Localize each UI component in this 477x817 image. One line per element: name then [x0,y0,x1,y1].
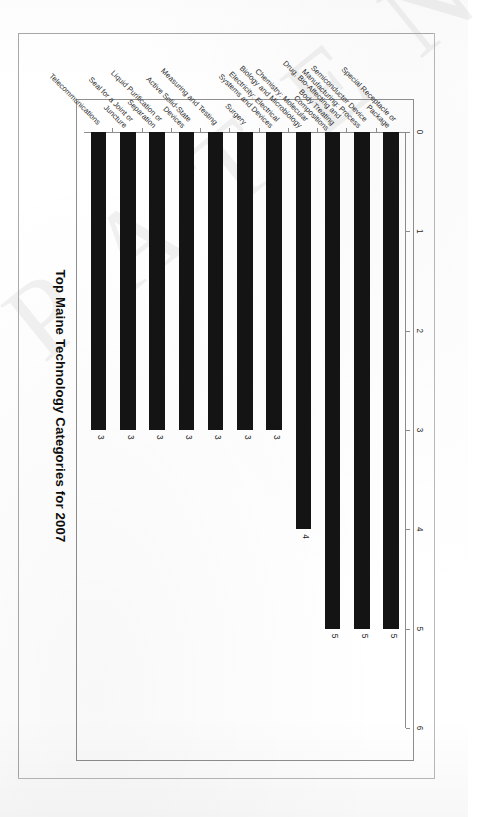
bar-row: 3 [260,132,289,728]
bar-row: 3 [201,132,230,728]
bar-value-label: 3 [96,435,105,440]
bar-value-label: 5 [360,634,369,639]
category-tick [346,128,347,132]
bar [179,132,195,430]
bar [354,132,370,629]
bar-row: 3 [143,132,172,728]
category-tick [376,128,377,132]
category-tick [112,128,113,132]
tick-mark [406,430,410,431]
bar-row: 3 [230,132,259,728]
category-tick [317,128,318,132]
tick-mark [406,529,410,530]
bar-value-label: 3 [155,435,164,440]
tick-label: 6 [415,726,424,731]
bar-value-label: 3 [126,435,135,440]
plot-area: 0123456 55543333333 Special Receptacle o… [84,132,406,728]
bar [266,132,282,430]
tick-mark [406,331,410,332]
bar-value-label: 3 [184,435,193,440]
rotated-chart-container: Top Maine Technology Categories for 2007… [20,36,432,776]
category-tick [288,128,289,132]
bar-value-label: 5 [330,634,339,639]
bar-row: 3 [172,132,201,728]
tick-label: 0 [415,130,424,135]
bar-chart: Top Maine Technology Categories for 2007… [20,36,432,776]
tick-label: 3 [415,428,424,433]
category-tick [142,128,143,132]
bar-value-label: 3 [272,435,281,440]
bar-value-label: 3 [243,435,252,440]
bar [237,132,253,430]
tick-mark [406,132,410,133]
tick-label: 4 [415,527,424,532]
chart-title: Top Maine Technology Categories for 2007 [53,36,68,776]
bar-row: 3 [113,132,142,728]
bar-value-label: 5 [389,634,398,639]
tick-mark [406,231,410,232]
bar [120,132,136,430]
bar [325,132,341,629]
category-tick [259,128,260,132]
tick-label: 2 [415,328,424,333]
tick-mark [406,629,410,630]
bar-value-label: 3 [213,435,222,440]
category-tick [200,128,201,132]
category-tick [229,128,230,132]
bar [149,132,165,430]
tick-mark [406,728,410,729]
bar-row: 5 [377,132,406,728]
category-tick [171,128,172,132]
bar [208,132,224,430]
tick-label: 5 [415,626,424,631]
bar-row: 3 [84,132,113,728]
tick-label: 1 [415,229,424,234]
bar-row: 5 [318,132,347,728]
bar-row: 4 [289,132,318,728]
bar-value-label: 4 [301,534,310,539]
bar [384,132,400,629]
bar [91,132,107,430]
bar-row: 5 [347,132,376,728]
bar [296,132,312,529]
